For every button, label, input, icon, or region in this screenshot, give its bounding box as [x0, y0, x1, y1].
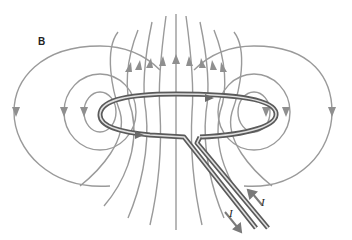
field-diagram-svg [0, 0, 352, 240]
current-label-down: I [229, 207, 233, 219]
magnetic-field-diagram: B I I [0, 0, 352, 240]
field-label-b: B [38, 36, 45, 47]
current-label-up: I [261, 196, 265, 208]
current-loop [100, 94, 276, 228]
left-loop-arrows [12, 107, 88, 117]
